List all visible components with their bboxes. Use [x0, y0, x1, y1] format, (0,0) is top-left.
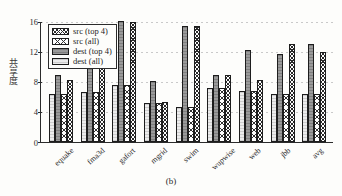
y-axis-tick-labels: 16 12 8 4 0 — [12, 0, 38, 196]
bar-group — [203, 22, 235, 142]
bar — [289, 44, 295, 142]
y-tick-8: 8 — [16, 78, 38, 87]
y-tick-4: 4 — [16, 108, 38, 117]
legend-item-label: src (all) — [73, 37, 99, 46]
figure-caption: (b) — [0, 176, 342, 186]
bar — [225, 75, 231, 142]
legend-item-label: src (top 4) — [73, 27, 108, 36]
legend-item-label: dest (all) — [73, 57, 103, 66]
legend-item: src (all) — [52, 37, 112, 46]
legend-item-label: dest (top 4) — [73, 47, 112, 56]
bar — [130, 22, 136, 142]
bar-group — [172, 22, 204, 142]
bar — [67, 80, 73, 142]
y-tick-12: 12 — [16, 48, 38, 57]
chart-legend: src (top 4)src (all)dest (top 4)dest (al… — [48, 24, 117, 69]
x-tick-label: wupwise — [210, 146, 237, 172]
bar-group — [235, 22, 267, 142]
x-tick-label: gafort — [117, 146, 137, 165]
bar-group — [267, 22, 299, 142]
bar — [194, 26, 200, 142]
x-tick-label: swim — [181, 146, 200, 164]
bar-group — [140, 22, 172, 142]
legend-item: dest (top 4) — [52, 47, 112, 56]
legend-item: dest (all) — [52, 57, 112, 66]
bar-group — [298, 22, 330, 142]
y-tick-16: 16 — [16, 18, 38, 27]
bar — [320, 52, 326, 142]
y-tickmark-0 — [38, 142, 42, 143]
x-tick-label: avg — [310, 146, 325, 160]
crosshatch-dense-pattern-icon — [52, 28, 69, 36]
x-tick-label: mgrid — [149, 146, 169, 165]
y-tick-0: 0 — [16, 139, 38, 148]
figure-bar-chart: 共享度 16 12 8 4 0 equakefma3dgafortmgridsw… — [0, 0, 342, 196]
x-tick-label: jbb — [279, 146, 293, 160]
bar — [162, 102, 168, 142]
x-tick-label: equake — [53, 146, 76, 168]
legend-item: src (top 4) — [52, 27, 112, 36]
x-tick-label: web — [246, 146, 262, 162]
x-tick-label: fma3d — [85, 146, 106, 166]
bar — [99, 68, 105, 142]
light-gray-fill-icon — [52, 58, 69, 66]
dark-gray-fill-icon — [52, 48, 69, 56]
crosshatch-wide-pattern-icon — [52, 38, 69, 46]
bar — [257, 80, 263, 142]
